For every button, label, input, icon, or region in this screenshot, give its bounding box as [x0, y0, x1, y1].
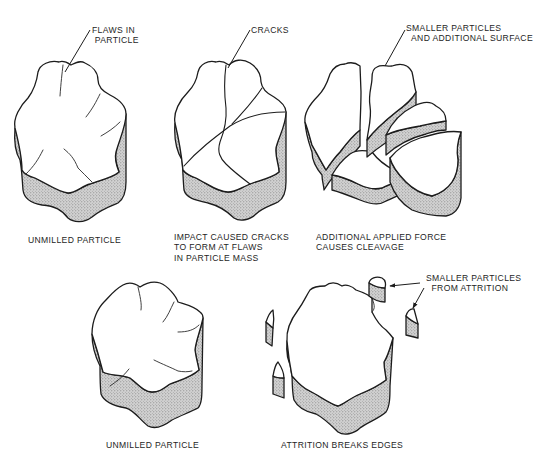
- attrition-chip: [273, 362, 284, 398]
- caption-cleavage: ADDITIONAL APPLIED FORCE CAUSES CLEAVAGE: [316, 232, 446, 253]
- callout-arrow: [413, 288, 424, 308]
- attrition-chip: [369, 277, 386, 302]
- callout-arrow: [390, 283, 420, 286]
- callout-smaller-particles-attrition: SMALLER PARTICLES FROM ATTRITION: [426, 273, 521, 294]
- caption-attrition: ATTRITION BREAKS EDGES: [281, 440, 403, 450]
- callout-flaws-in-particle: FLAWS IN PARTICLE: [92, 25, 139, 46]
- callout-smaller-particles-surface: SMALLER PARTICLES AND ADDITIONAL SURFACE: [406, 23, 533, 44]
- attrition-chip: [266, 310, 274, 346]
- particle-top-face: [15, 61, 126, 193]
- panel-unmilled-particle-top: [15, 30, 126, 222]
- callout-cracks: CRACKS: [251, 25, 289, 35]
- attrition-chip: [406, 309, 418, 338]
- caption-unmilled-particle-top: UNMILLED PARTICLE: [28, 235, 121, 245]
- panel-cleavage: [305, 30, 461, 216]
- panel-attrition: [266, 277, 424, 434]
- panel-unmilled-particle-bottom: [92, 282, 203, 427]
- caption-unmilled-particle-bottom: UNMILLED PARTICLE: [106, 440, 199, 450]
- panel-impact-cracks: [175, 30, 286, 220]
- callout-leader-line: [385, 30, 405, 66]
- caption-impact-cracks: IMPACT CAUSED CRACKS TO FORM AT FLAWS IN…: [174, 232, 289, 263]
